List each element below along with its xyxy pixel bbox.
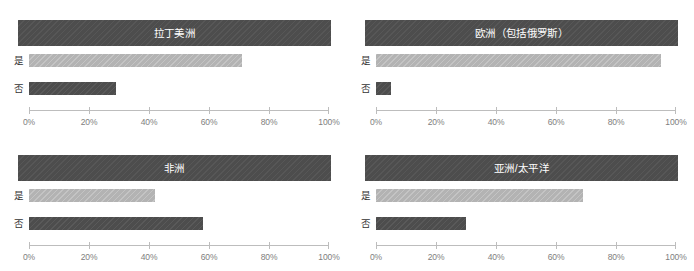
axis-tick — [556, 242, 557, 249]
bar-row-label: 否 — [14, 83, 27, 95]
axis-tick-label: 60% — [201, 117, 218, 127]
x-axis: 0%20%40%60%80%100% — [29, 110, 329, 130]
axis-tick-label: 0% — [23, 117, 35, 127]
axis-tick-label: 100% — [665, 252, 686, 262]
bar-no — [376, 217, 466, 230]
bar-no — [29, 82, 116, 95]
axis-tick-label: 100% — [318, 117, 339, 127]
chart-page: 拉丁美洲 是 否 0%20%40%60%80%100% — [0, 0, 694, 271]
bar-no — [376, 82, 391, 95]
panel-plot-area: 是 否 0%20%40%60%80%100% — [347, 187, 694, 265]
axis-tick — [29, 107, 30, 114]
bar-track — [376, 217, 676, 230]
bar-no — [29, 217, 203, 230]
bar-yes — [29, 189, 155, 202]
axis-tick-label: 100% — [318, 252, 339, 262]
axis-tick-label: 60% — [548, 117, 565, 127]
bar-track — [29, 82, 329, 95]
panel-plot-area: 是 否 0%20%40%60%80%100% — [0, 52, 347, 130]
bar-yes — [29, 54, 242, 67]
bar-track — [376, 54, 676, 67]
axis-tick-label: 80% — [608, 252, 625, 262]
axis-tick-label: 20% — [81, 117, 98, 127]
axis-tick — [149, 107, 150, 114]
axis-tick-label: 100% — [665, 117, 686, 127]
axis-tick-label: 60% — [201, 252, 218, 262]
axis-tick-label: 40% — [141, 252, 158, 262]
panel-grid: 拉丁美洲 是 否 0%20%40%60%80%100% — [0, 0, 694, 271]
bar-row-label: 是 — [14, 190, 27, 202]
x-axis: 0%20%40%60%80%100% — [376, 245, 676, 265]
axis-tick — [269, 107, 270, 114]
bar-row-label: 是 — [14, 55, 27, 67]
panel-africa: 非洲 是 否 0%20%40%60%80%100% — [0, 135, 347, 271]
axis-tick — [269, 242, 270, 249]
bar-track — [376, 189, 676, 202]
panel-latin-america: 拉丁美洲 是 否 0%20%40%60%80%100% — [0, 0, 347, 135]
axis-tick — [328, 242, 329, 249]
axis-tick-label: 0% — [370, 252, 382, 262]
axis-tick — [616, 242, 617, 249]
axis-tick — [89, 107, 90, 114]
bar-row-label: 是 — [361, 55, 374, 67]
axis-tick — [496, 107, 497, 114]
panel-plot-area: 是 否 0%20%40%60%80%100% — [0, 187, 347, 265]
axis-tick — [209, 242, 210, 249]
axis-tick — [328, 107, 329, 114]
axis-tick — [29, 242, 30, 249]
panel-title: 拉丁美洲 — [18, 20, 331, 46]
axis-tick — [616, 107, 617, 114]
panel-title: 亚洲/太平洋 — [365, 155, 678, 181]
axis-tick-label: 0% — [370, 117, 382, 127]
axis-tick-label: 20% — [428, 117, 445, 127]
bar-track — [376, 82, 676, 95]
axis-tick-label: 80% — [261, 252, 278, 262]
axis-tick — [436, 242, 437, 249]
bar-track — [29, 189, 329, 202]
bar-track — [29, 217, 329, 230]
axis-tick-label: 60% — [548, 252, 565, 262]
axis-line — [29, 245, 329, 246]
panel-plot-area: 是 否 0%20%40%60%80%100% — [347, 52, 694, 130]
axis-tick-label: 20% — [81, 252, 98, 262]
panel-title: 非洲 — [18, 155, 331, 181]
axis-tick — [209, 107, 210, 114]
panel-title: 欧洲（包括俄罗斯） — [365, 20, 678, 46]
axis-tick-label: 80% — [608, 117, 625, 127]
axis-line — [376, 245, 676, 246]
bar-row-label: 是 — [361, 190, 374, 202]
bar-yes — [376, 54, 661, 67]
axis-tick — [675, 242, 676, 249]
axis-line — [29, 110, 329, 111]
panel-europe: 欧洲（包括俄罗斯） 是 否 0%20%40%60%80%100% — [347, 0, 694, 135]
bar-row-label: 否 — [361, 218, 374, 230]
axis-tick — [376, 107, 377, 114]
bar-yes — [376, 189, 583, 202]
panel-asia-pacific: 亚洲/太平洋 是 否 0%20%40%60%80%100% — [347, 135, 694, 271]
bar-row-label: 否 — [361, 83, 374, 95]
axis-tick — [436, 107, 437, 114]
bar-row-label: 否 — [14, 218, 27, 230]
axis-tick-label: 20% — [428, 252, 445, 262]
axis-tick-label: 0% — [23, 252, 35, 262]
axis-tick — [675, 107, 676, 114]
axis-tick — [149, 242, 150, 249]
axis-tick-label: 40% — [488, 117, 505, 127]
axis-tick-label: 40% — [141, 117, 158, 127]
axis-tick — [556, 107, 557, 114]
bar-track — [29, 54, 329, 67]
axis-tick-label: 40% — [488, 252, 505, 262]
x-axis: 0%20%40%60%80%100% — [29, 245, 329, 265]
axis-tick-label: 80% — [261, 117, 278, 127]
axis-tick — [89, 242, 90, 249]
x-axis: 0%20%40%60%80%100% — [376, 110, 676, 130]
axis-tick — [376, 242, 377, 249]
axis-tick — [496, 242, 497, 249]
axis-line — [376, 110, 676, 111]
